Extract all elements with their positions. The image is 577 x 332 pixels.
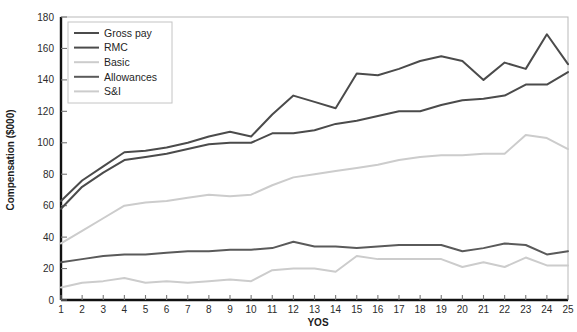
x-tick-label: 4 <box>122 304 128 315</box>
x-tick-label: 7 <box>185 304 191 315</box>
x-tick-label: 13 <box>309 304 321 315</box>
y-tick-label: 160 <box>37 43 54 54</box>
y-axis-label: Compensation ($000) <box>5 109 16 210</box>
legend-label-allowances: Allowances <box>104 71 157 83</box>
y-tick-label: 140 <box>37 74 54 85</box>
legend-label-rmc: RMC <box>104 41 128 53</box>
legend-label-basic: Basic <box>104 56 130 68</box>
y-tick-label: 180 <box>37 12 54 23</box>
x-tick-label: 1 <box>58 304 64 315</box>
x-tick-label: 15 <box>351 304 363 315</box>
x-tick-label: 9 <box>227 304 233 315</box>
x-tick-label: 19 <box>436 304 448 315</box>
y-tick-label: 0 <box>48 295 54 306</box>
y-tick-label: 40 <box>43 232 55 243</box>
x-tick-label: 11 <box>267 304 278 315</box>
x-tick-label: 8 <box>206 304 212 315</box>
x-tick-label: 14 <box>330 304 342 315</box>
compensation-line-chart: 0204060801001201401601801234567891011121… <box>0 0 577 332</box>
x-tick-label: 12 <box>288 304 300 315</box>
chart-legend: Gross payRMCBasicAllowancesS&I <box>68 22 172 103</box>
x-tick-label: 20 <box>457 304 469 315</box>
y-tick-label: 60 <box>43 200 55 211</box>
y-tick-label: 20 <box>43 263 55 274</box>
y-tick-label: 120 <box>37 106 54 117</box>
x-tick-label: 6 <box>164 304 170 315</box>
x-tick-label: 3 <box>100 304 106 315</box>
x-tick-label: 18 <box>415 304 427 315</box>
x-tick-label: 5 <box>143 304 149 315</box>
legend-label-s-i: S&I <box>104 85 121 97</box>
x-tick-label: 2 <box>79 304 85 315</box>
x-tick-label: 24 <box>541 304 553 315</box>
legend-label-gross-pay: Gross pay <box>104 27 153 39</box>
x-tick-label: 21 <box>478 304 490 315</box>
x-tick-label: 16 <box>372 304 384 315</box>
x-tick-label: 17 <box>393 304 405 315</box>
x-tick-label: 10 <box>246 304 258 315</box>
y-tick-label: 80 <box>43 169 55 180</box>
x-tick-label: 22 <box>499 304 511 315</box>
y-tick-label: 100 <box>37 137 54 148</box>
x-axis-label: YOS <box>307 317 328 328</box>
x-tick-label: 25 <box>562 304 574 315</box>
x-tick-label: 23 <box>520 304 532 315</box>
